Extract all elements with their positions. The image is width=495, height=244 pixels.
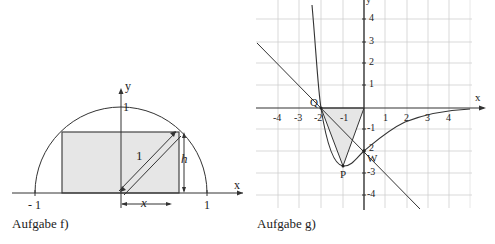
g-x-tick: 4	[446, 112, 451, 123]
g-point-W-label: W	[367, 152, 377, 164]
f-x-axis-label: x	[234, 178, 240, 193]
arrow-left-icon	[121, 202, 127, 206]
g-x-tick: -3	[294, 112, 302, 123]
g-x-tick: 1	[383, 112, 388, 123]
g-y-tick: -1	[367, 122, 375, 133]
arrow-down-icon	[182, 187, 186, 193]
f-tick-neg1: - 1	[28, 198, 41, 213]
g-y-tick: -3	[367, 166, 375, 177]
figures-canvas	[0, 0, 495, 244]
g-caption: Aufgabe g)	[257, 216, 316, 232]
y-axis-arrow-icon	[119, 88, 124, 94]
g-point-Q-label: Q	[310, 96, 318, 108]
point-Q	[320, 107, 323, 110]
g-y-tick: 1	[369, 78, 374, 89]
x-axis-arrow-icon	[479, 106, 486, 111]
f-height-label: h	[181, 151, 188, 167]
tangent-line	[257, 43, 420, 209]
f-caption: Aufgabe f)	[12, 216, 69, 232]
g-x-axis-label: x	[475, 91, 481, 103]
f-y-axis-label: y	[125, 79, 131, 94]
g-point-P-label: P	[340, 168, 346, 180]
g-y-tick: 2	[369, 56, 374, 67]
f-width-label: x	[141, 195, 147, 211]
g-x-tick: 2	[404, 112, 409, 123]
f-tick-pos1: 1	[204, 198, 210, 213]
g-x-tick: -1	[340, 112, 348, 123]
figure-g	[256, 0, 486, 210]
g-y-axis-label: y	[366, 0, 371, 5]
arrow-right-icon	[166, 202, 172, 206]
g-x-tick: 3	[425, 112, 430, 123]
g-y-tick: 4	[369, 12, 374, 23]
f-tick-y1: 1	[123, 100, 129, 115]
point-W	[362, 149, 366, 153]
g-y-tick: 3	[369, 35, 374, 46]
g-x-tick: -2	[314, 112, 322, 123]
f-radius-label: 1	[136, 148, 143, 164]
g-x-tick: -4	[273, 112, 281, 123]
g-y-tick: -4	[367, 188, 375, 199]
